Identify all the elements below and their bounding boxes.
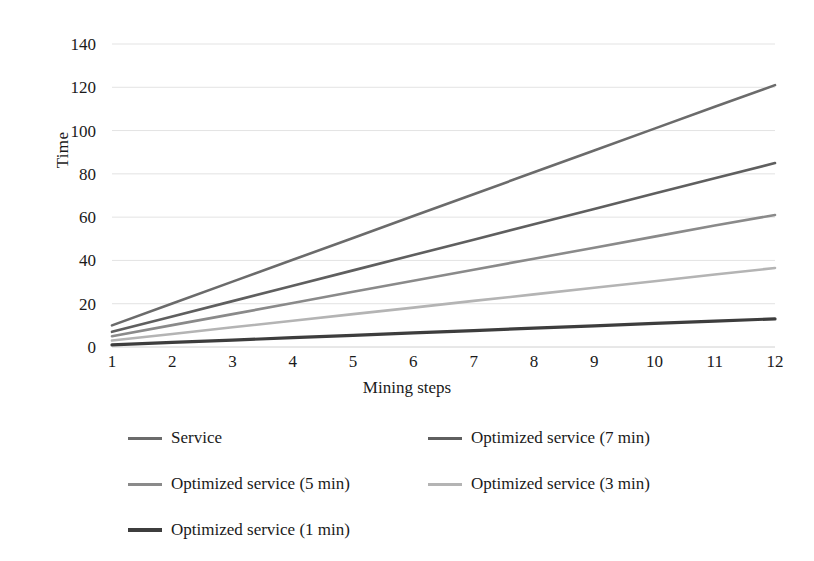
legend-swatch-icon bbox=[128, 483, 162, 486]
x-tick-label: 3 bbox=[213, 352, 253, 372]
x-tick-label: 5 bbox=[333, 352, 373, 372]
x-tick-label: 7 bbox=[454, 352, 494, 372]
plot-canvas bbox=[0, 0, 814, 400]
legend-swatch-icon bbox=[128, 528, 162, 531]
legend-label: Optimized service (7 min) bbox=[471, 428, 650, 448]
legend-swatch-icon bbox=[128, 437, 162, 440]
legend-label: Optimized service (1 min) bbox=[171, 520, 350, 540]
x-tick-label: 2 bbox=[152, 352, 192, 372]
line-chart: Time 020406080100120140 123456789101112 … bbox=[0, 0, 814, 561]
legend-label: Service bbox=[171, 428, 222, 448]
x-tick-label: 1 bbox=[92, 352, 132, 372]
legend-label: Optimized service (3 min) bbox=[471, 474, 650, 494]
x-tick-label: 9 bbox=[574, 352, 614, 372]
series-line bbox=[112, 163, 775, 332]
legend-item[interactable]: Optimized service (3 min) bbox=[428, 474, 748, 494]
legend-item[interactable]: Optimized service (1 min) bbox=[128, 520, 428, 540]
legend-swatch-icon bbox=[428, 437, 462, 440]
legend-label: Optimized service (5 min) bbox=[171, 474, 350, 494]
x-axis-ticks: 123456789101112 bbox=[0, 352, 814, 376]
x-tick-label: 8 bbox=[514, 352, 554, 372]
x-tick-label: 10 bbox=[634, 352, 674, 372]
legend-item[interactable]: Service bbox=[128, 428, 428, 448]
series-line bbox=[112, 268, 775, 341]
chart-legend: ServiceOptimized service (7 min)Optimize… bbox=[128, 428, 748, 540]
x-tick-label: 12 bbox=[755, 352, 795, 372]
series-line bbox=[112, 85, 775, 325]
legend-item[interactable]: Optimized service (7 min) bbox=[428, 428, 748, 448]
x-tick-label: 4 bbox=[273, 352, 313, 372]
legend-swatch-icon bbox=[428, 483, 462, 486]
legend-item[interactable]: Optimized service (5 min) bbox=[128, 474, 428, 494]
x-axis-label: Mining steps bbox=[0, 378, 814, 398]
x-tick-label: 11 bbox=[695, 352, 735, 372]
series-line bbox=[112, 215, 775, 336]
x-tick-label: 6 bbox=[393, 352, 433, 372]
plot-area: Time 020406080100120140 123456789101112 … bbox=[0, 0, 814, 400]
series-line bbox=[112, 319, 775, 345]
